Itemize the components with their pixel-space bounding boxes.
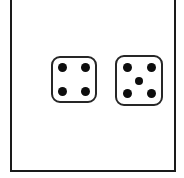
pip-bottom-right	[147, 89, 156, 98]
die-right[interactable]	[115, 55, 163, 106]
die-left[interactable]	[51, 56, 97, 103]
pip-bottom-right	[81, 87, 90, 96]
pip-bottom-left	[123, 89, 132, 98]
pip-top-left	[58, 63, 67, 72]
pip-top-left	[123, 63, 132, 72]
die-right-pip-grid	[117, 57, 161, 104]
die-left-pip-grid	[53, 58, 95, 101]
pip-bottom-left	[58, 87, 67, 96]
pip-top-right	[147, 63, 156, 72]
image-canvas	[0, 0, 184, 178]
picture-frame	[10, 0, 176, 172]
pip-center	[135, 77, 143, 85]
pip-top-right	[81, 63, 90, 72]
